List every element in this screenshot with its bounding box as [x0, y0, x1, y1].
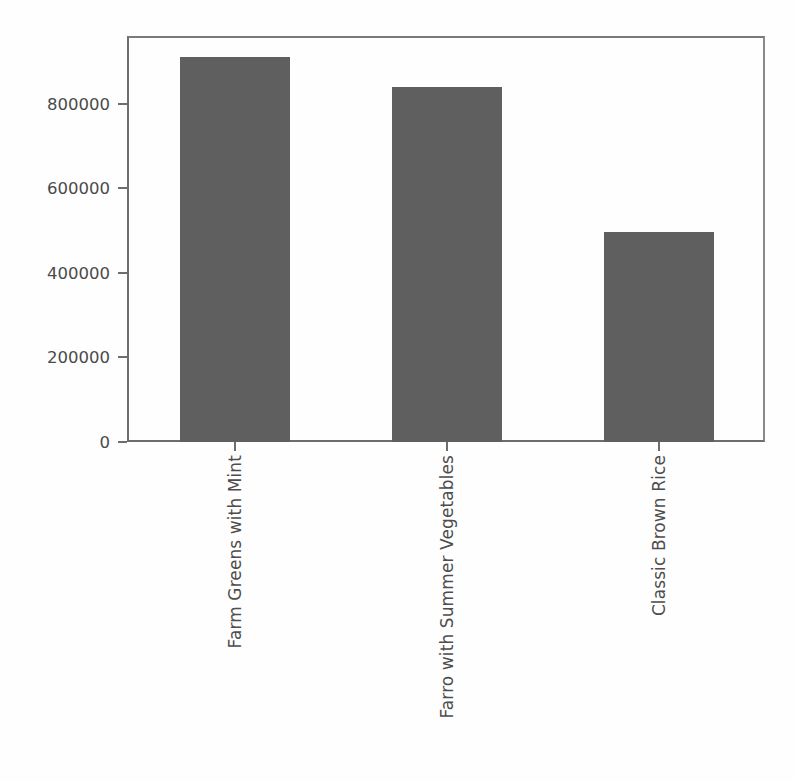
y-axis-tick: [118, 272, 127, 274]
y-axis-tick: [118, 356, 127, 358]
y-axis-label: 0: [0, 433, 110, 452]
y-axis-tick: [118, 187, 127, 189]
bar-chart-figure: 0 200000 400000 600000 800000 Farm Green…: [0, 0, 796, 781]
y-axis-label: 600000: [0, 179, 110, 198]
bar-farro-with-summer-vegetables[interactable]: [392, 87, 502, 442]
y-axis-label: 800000: [0, 94, 110, 113]
y-axis-label: 400000: [0, 263, 110, 282]
plot-area: [129, 38, 765, 442]
bar-farm-greens-with-mint[interactable]: [180, 57, 290, 442]
x-axis-tick: [658, 442, 660, 451]
x-axis-label: Farro with Summer Vegetables: [437, 455, 457, 719]
x-axis-tick: [234, 442, 236, 451]
bar-classic-brown-rice[interactable]: [604, 232, 714, 442]
y-axis-tick: [118, 441, 127, 443]
y-axis-tick: [118, 103, 127, 105]
x-axis-label: Classic Brown Rice: [649, 455, 669, 616]
x-axis-tick: [446, 442, 448, 451]
y-axis-label: 200000: [0, 348, 110, 367]
x-axis-label: Farm Greens with Mint: [225, 455, 245, 648]
